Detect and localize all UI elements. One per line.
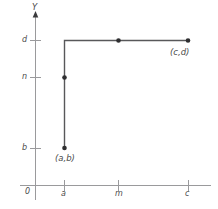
- marker-point-a-n: [62, 75, 67, 80]
- x-tick-label-m: m: [115, 190, 123, 198]
- marker-point-m-d: [116, 38, 121, 43]
- y-axis-label: Y: [32, 3, 37, 12]
- x-tick-label-c: c: [185, 190, 189, 198]
- x-tick-label-a: a: [61, 190, 66, 198]
- point-label-c-d: (c,d): [170, 48, 189, 57]
- marker-point-a-b: [62, 146, 67, 151]
- point-label-a-b: (a,b): [55, 154, 75, 163]
- origin-label: 0: [25, 188, 30, 196]
- plot-canvas: [0, 0, 218, 209]
- y-tick-label-d: d: [22, 36, 27, 44]
- y-tick-label-n: n: [22, 73, 27, 81]
- y-tick-label-b: b: [22, 144, 27, 152]
- coordinate-plane-figure: Y 0 d n b a m c (a,b) (c,d): [0, 0, 218, 209]
- marker-point-c-d: [186, 38, 191, 43]
